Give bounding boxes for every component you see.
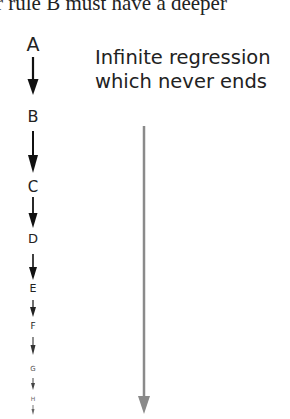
arrow-down-icon: [28, 57, 39, 95]
arrow-down-icon: [31, 337, 36, 355]
arrow-down-icon: [30, 300, 36, 317]
diagram-arrows: [0, 0, 290, 419]
arrow-down-icon: [28, 131, 38, 173]
infinite-arrow-icon: [138, 126, 150, 414]
arrow-down-icon: [32, 405, 35, 415]
arrow-down-icon: [29, 197, 38, 228]
arrow-down-icon: [31, 378, 35, 390]
arrow-down-icon: [29, 254, 37, 280]
